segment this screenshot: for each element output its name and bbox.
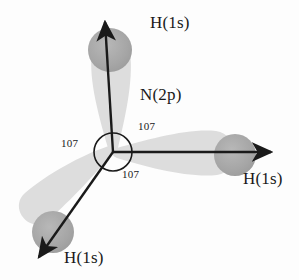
bond-angle-left-label: 107 bbox=[61, 138, 78, 149]
lobe-down-left-icon bbox=[19, 147, 113, 225]
hydrogen-bottom-left-label: H(1s) bbox=[64, 249, 104, 266]
bond-angle-bottom-label: 107 bbox=[122, 169, 139, 180]
hydrogen-right-label: H(1s) bbox=[243, 170, 283, 187]
diagram-canvas bbox=[0, 0, 299, 280]
nh3-orbital-diagram: H(1s) H(1s) H(1s) N(2p) 107 107 107 bbox=[0, 0, 299, 280]
bond-angle-top-right-label: 107 bbox=[138, 121, 155, 132]
hydrogen-top-label: H(1s) bbox=[150, 14, 190, 31]
nitrogen-orbital-label: N(2p) bbox=[140, 86, 182, 103]
sphere-top-icon bbox=[88, 28, 132, 72]
